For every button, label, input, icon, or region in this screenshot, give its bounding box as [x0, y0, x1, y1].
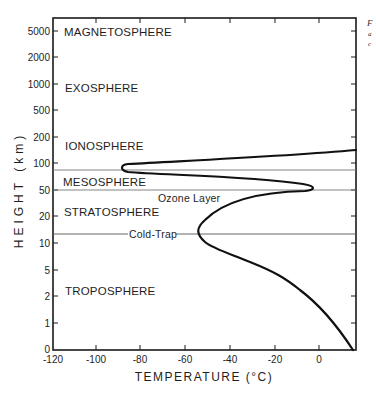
svg-text:-60: -60: [178, 354, 193, 365]
label-ozone-layer: Ozone Layer: [158, 192, 221, 204]
svg-text:5: 5: [44, 265, 50, 276]
temperature-profile-curve: [122, 150, 356, 350]
svg-text:2000: 2000: [28, 52, 51, 63]
label-exosphere: EXOSPHERE: [65, 82, 139, 94]
svg-text:1: 1: [44, 318, 50, 329]
label-mesosphere: MESOSPHERE: [63, 176, 146, 188]
svg-text:500: 500: [33, 105, 50, 116]
y-tick-labels: 5000 2000 1000 500 200 100 50 20 10 5 2 …: [28, 26, 51, 355]
label-magnetosphere: MAGNETOSPHERE: [64, 26, 172, 38]
atmosphere-temperature-chart: MAGNETOSPHERE EXOSPHERE IONOSPHERE MESOS…: [0, 0, 376, 399]
y-axis-title: HEIGHT (km): [12, 132, 26, 248]
svg-text:-100: -100: [86, 354, 106, 365]
svg-text:-120: -120: [43, 354, 63, 365]
label-cold-trap: Cold-Trap: [129, 228, 177, 240]
svg-text:5000: 5000: [28, 26, 51, 37]
x-tick-labels: -120 -100 -80 -60 -40 -20 0: [43, 354, 322, 365]
svg-text:1000: 1000: [28, 79, 51, 90]
svg-text:0: 0: [316, 354, 322, 365]
label-ionosphere: IONOSPHERE: [65, 140, 144, 152]
svg-text:-20: -20: [268, 354, 283, 365]
label-troposphere: TROPOSPHERE: [65, 285, 156, 297]
svg-text:-40: -40: [223, 354, 238, 365]
side-caption-line-2: a: [368, 30, 372, 38]
svg-text:50: 50: [39, 185, 51, 196]
svg-text:10: 10: [39, 238, 51, 249]
svg-text:200: 200: [33, 132, 50, 143]
svg-text:2: 2: [44, 291, 50, 302]
svg-text:-80: -80: [133, 354, 148, 365]
side-caption-line-3: c: [368, 40, 372, 48]
side-caption-line-1: F: [366, 18, 373, 28]
svg-text:20: 20: [39, 211, 51, 222]
svg-text:100: 100: [33, 158, 50, 169]
x-axis-title: TEMPERATURE (°C): [135, 370, 274, 384]
label-stratosphere: STRATOSPHERE: [64, 206, 159, 218]
